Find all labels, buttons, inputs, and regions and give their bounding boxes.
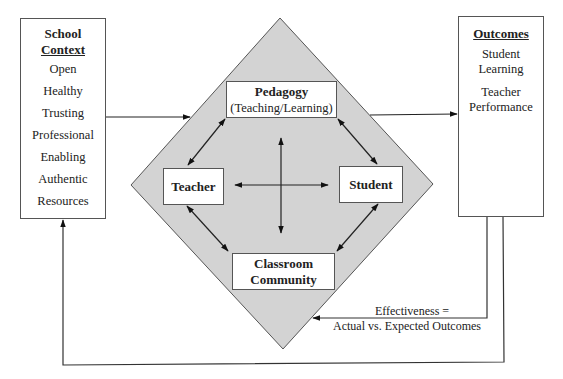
school-context-box: School Context Open Healthy Trusting Pro… xyxy=(20,18,106,219)
context-item-open: Open xyxy=(21,58,105,80)
outcomes-box: Outcomes Student Learning Teacher Perfor… xyxy=(458,16,544,217)
classroom-line2: Community xyxy=(250,272,316,288)
effectiveness-label: Effectiveness = Actual vs. Expected Outc… xyxy=(322,304,492,334)
outcome-student-line2: Learning xyxy=(459,62,543,77)
teacher-box: Teacher xyxy=(163,168,224,205)
context-item-professional: Professional xyxy=(21,124,105,146)
student-title: Student xyxy=(349,177,392,193)
outcome-student-learning: Student Learning xyxy=(459,47,543,77)
arrow-pedagogy-to-outcomes xyxy=(370,114,457,115)
school-context-title-line2: Context xyxy=(21,42,105,58)
pedagogy-title: Pedagogy xyxy=(255,84,308,100)
context-item-authentic: Authentic xyxy=(21,168,105,190)
pedagogy-box: Pedagogy (Teaching/Learning) xyxy=(226,81,337,118)
outcome-student-line1: Student xyxy=(459,47,543,62)
student-box: Student xyxy=(339,166,403,203)
context-item-enabling: Enabling xyxy=(21,146,105,168)
pedagogy-subtitle: (Teaching/Learning) xyxy=(230,100,333,116)
outcomes-title: Outcomes xyxy=(459,26,543,42)
teacher-title: Teacher xyxy=(171,179,215,195)
school-context-title-line1: School xyxy=(21,26,105,42)
effectiveness-line2: Actual vs. Expected Outcomes xyxy=(322,319,492,334)
outcome-teacher-line2: Performance xyxy=(459,100,543,115)
context-item-trusting: Trusting xyxy=(21,102,105,124)
context-item-healthy: Healthy xyxy=(21,80,105,102)
effectiveness-line1: Effectiveness = xyxy=(322,304,492,319)
outcome-teacher-line1: Teacher xyxy=(459,85,543,100)
context-item-resources: Resources xyxy=(21,190,105,212)
classroom-community-box: Classroom Community xyxy=(232,253,335,290)
outcome-teacher-performance: Teacher Performance xyxy=(459,85,543,115)
classroom-line1: Classroom xyxy=(254,256,313,272)
